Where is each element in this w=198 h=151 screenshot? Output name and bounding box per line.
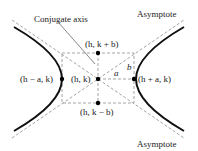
center-label: (h, k)	[71, 74, 91, 84]
top-point	[96, 51, 100, 55]
asymptote-bottom-label: Asymptote	[137, 139, 177, 149]
top-point-label: (h, k + b)	[85, 39, 119, 49]
hyperbola-diagram: Conjugate axis Asymptote Asymptote (h, k…	[0, 0, 198, 151]
bottom-point-label: (h, k − b)	[80, 107, 114, 117]
a-label: a	[114, 68, 119, 78]
right-vertex-label: (h + a, k)	[138, 74, 171, 84]
center-point	[96, 77, 100, 81]
conjugate-axis-label: Conjugate axis	[34, 14, 88, 24]
left-vertex-point	[60, 77, 64, 81]
left-vertex-label: (h − a, k)	[20, 74, 53, 84]
bottom-point	[96, 101, 100, 105]
asymptote-top-label: Asymptote	[137, 9, 177, 19]
right-vertex-point	[132, 77, 136, 81]
b-label: b	[127, 62, 132, 72]
